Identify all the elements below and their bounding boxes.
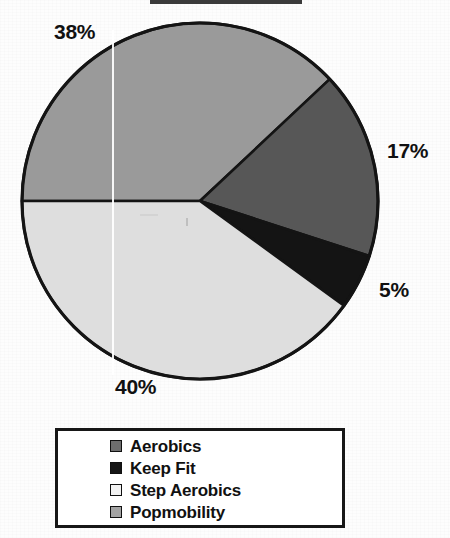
legend-item-keep-fit[interactable]: Keep Fit <box>110 457 241 479</box>
legend-item-label: Aerobics <box>130 438 201 455</box>
legend-item-popmobility[interactable]: Popmobility <box>110 501 241 523</box>
legend-item-label: Keep Fit <box>130 460 195 477</box>
legend-swatch-icon <box>110 440 122 452</box>
slice-label-aerobics: 17% <box>387 139 428 163</box>
legend-item-label: Step Aerobics <box>130 482 241 499</box>
legend-item-label: Popmobility <box>130 504 225 521</box>
legend-item-list: AerobicsKeep FitStep AerobicsPopmobility <box>110 435 241 523</box>
slice-label-keep-fit: 5% <box>379 278 409 302</box>
legend-item-aerobics[interactable]: Aerobics <box>110 435 241 457</box>
slice-label-popmobility: 38% <box>54 20 95 44</box>
pie-chart-svg <box>0 0 450 400</box>
legend-item-step-aerobics[interactable]: Step Aerobics <box>110 479 241 501</box>
legend-swatch-icon <box>110 462 122 474</box>
pie-chart <box>0 0 450 400</box>
slice-label-step-aerobics: 40% <box>115 375 156 399</box>
chart-legend: AerobicsKeep FitStep AerobicsPopmobility <box>55 428 345 528</box>
legend-swatch-icon <box>110 484 122 496</box>
legend-swatch-icon <box>110 506 122 518</box>
